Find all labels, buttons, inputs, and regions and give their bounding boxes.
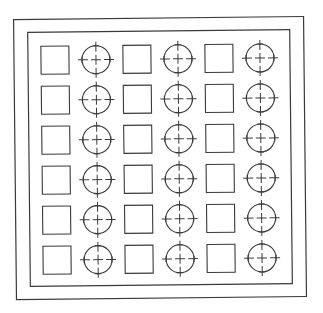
circle-center-mark xyxy=(79,121,115,157)
circle-center-mark xyxy=(243,160,279,196)
square-shape xyxy=(43,246,71,274)
circle-center-mark xyxy=(160,41,196,77)
drawing-root xyxy=(14,17,307,300)
square-shape xyxy=(43,206,71,234)
circle-center-mark xyxy=(161,161,197,197)
circle-center-mark xyxy=(78,41,114,77)
circle-center-mark xyxy=(243,120,279,156)
circle-center-mark xyxy=(80,241,116,277)
cell-grid xyxy=(41,40,280,278)
square-shape xyxy=(42,166,70,194)
circle-center-mark xyxy=(242,40,278,76)
circle-center-mark xyxy=(79,161,115,197)
circle-center-mark xyxy=(78,81,114,117)
circle-center-mark xyxy=(243,200,279,236)
square-shape xyxy=(124,165,152,193)
square-shape xyxy=(123,45,151,73)
grid-drawing xyxy=(0,0,323,313)
square-shape xyxy=(206,164,234,192)
square-shape xyxy=(124,125,152,153)
square-shape xyxy=(41,46,69,74)
circle-center-mark xyxy=(242,80,278,116)
square-shape xyxy=(125,245,153,273)
circle-center-mark xyxy=(161,201,197,237)
square-shape xyxy=(205,84,233,112)
circle-center-mark xyxy=(160,81,196,117)
circle-center-mark xyxy=(161,121,197,157)
square-shape xyxy=(205,44,233,72)
square-shape xyxy=(207,204,235,232)
diagram-canvas xyxy=(0,0,323,313)
square-shape xyxy=(207,244,235,272)
square-shape xyxy=(125,205,153,233)
square-shape xyxy=(123,85,151,113)
circle-center-mark xyxy=(162,241,198,277)
circle-center-mark xyxy=(244,240,280,276)
square-shape xyxy=(206,124,234,152)
square-shape xyxy=(42,126,70,154)
square-shape xyxy=(41,86,69,114)
circle-center-mark xyxy=(79,201,115,237)
